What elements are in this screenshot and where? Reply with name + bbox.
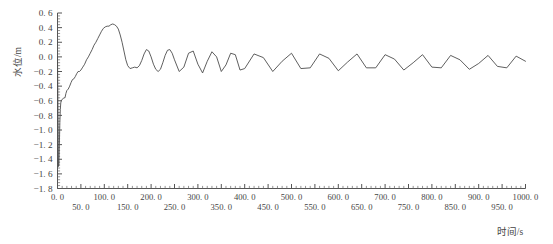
- x-tick-label: 800. 0: [421, 192, 442, 202]
- y-tick-label: −0. 8: [34, 111, 53, 121]
- x-tick-label: 200. 0: [140, 192, 161, 202]
- x-tick-label: 0. 0: [51, 192, 64, 202]
- y-tick-label: 0. 6: [39, 8, 53, 18]
- x-tick-label: 650. 0: [351, 202, 372, 212]
- y-tick-label: −0. 2: [34, 67, 53, 77]
- x-tick-label: 100. 0: [94, 192, 115, 202]
- y-tick-label: −0. 4: [34, 81, 53, 91]
- x-tick-label: 150. 0: [117, 202, 138, 212]
- x-tick-label: 550. 0: [304, 202, 325, 212]
- x-tick-label: 950. 0: [491, 202, 512, 212]
- x-tick-label: 300. 0: [187, 192, 208, 202]
- y-tick-label: −1. 8: [34, 184, 53, 194]
- y-tick-label: 0. 0: [39, 52, 53, 62]
- y-tick-label: −1. 0: [34, 125, 53, 135]
- y-tick-label: −0. 6: [34, 96, 53, 106]
- x-tick-label: 1000. 0: [513, 192, 539, 202]
- y-tick-label: −1. 4: [34, 154, 53, 164]
- x-tick-label: 900. 0: [468, 192, 489, 202]
- water-level-time-chart: 0. 60. 40. 20. 0−0. 2−0. 4−0. 6−0. 8−1. …: [0, 0, 553, 244]
- x-tick-label: 500. 0: [281, 192, 302, 202]
- x-tick-label: 250. 0: [164, 202, 185, 212]
- y-tick-label: −1. 2: [34, 140, 53, 150]
- x-tick-label: 700. 0: [374, 192, 395, 202]
- chart-figure: 0. 60. 40. 20. 0−0. 2−0. 4−0. 6−0. 8−1. …: [0, 0, 553, 244]
- x-axis-major-ticks: [58, 184, 526, 189]
- x-tick-label: 600. 0: [328, 192, 349, 202]
- y-tick-label: 0. 4: [39, 23, 53, 33]
- x-axis-title: 时间/s: [497, 226, 524, 237]
- x-tick-label: 850. 0: [445, 202, 466, 212]
- x-tick-label: 400. 0: [234, 192, 255, 202]
- x-tick-label: 750. 0: [398, 202, 419, 212]
- x-tick-label: 50. 0: [72, 202, 89, 212]
- y-tick-label: −1. 6: [34, 169, 53, 179]
- y-axis-title: 水位/m: [12, 46, 23, 77]
- y-tick-label: 0. 2: [39, 37, 53, 47]
- x-tick-label: 350. 0: [211, 202, 232, 212]
- x-tick-label: 450. 0: [257, 202, 278, 212]
